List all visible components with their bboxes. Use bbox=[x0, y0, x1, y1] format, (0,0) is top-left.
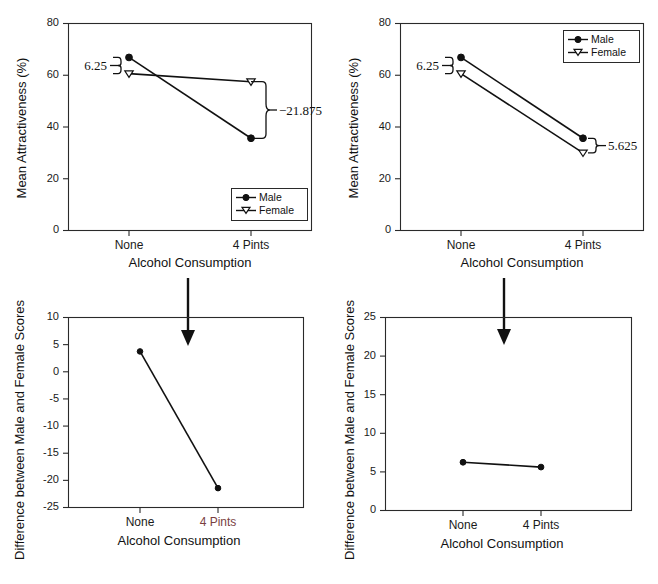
data-point-male-four-pints bbox=[580, 135, 587, 142]
y-axis-ticks-bottom-right: 0 5 10 15 20 25 bbox=[364, 310, 386, 515]
y-tick-label: 60 bbox=[379, 68, 391, 80]
x-axis-ticks-top-left: None 4 Pints bbox=[115, 231, 270, 253]
legend-marker-male bbox=[575, 36, 581, 42]
y-axis-title-bottom-right: Difference between Male and Female Score… bbox=[342, 300, 357, 560]
y-tick-label: -25 bbox=[43, 500, 59, 512]
annotation-bracket-none-top-right: 6.25 bbox=[416, 57, 453, 73]
y-tick-label: 0 bbox=[53, 365, 59, 377]
y-tick-label: 0 bbox=[385, 223, 391, 235]
y-axis-title-top-left: Mean Attractiveness (%) bbox=[14, 58, 29, 199]
y-axis-ticks-bottom-left: -25 -20 -15 -10 -5 0 5 10 bbox=[43, 310, 68, 512]
y-axis-title-bottom-left: Difference between Male and Female Score… bbox=[12, 300, 27, 560]
series-line-difference bbox=[463, 462, 541, 467]
chart-panel-top-right: Mean Attractiveness (%) 0 20 40 60 80 No… bbox=[330, 0, 658, 270]
y-axis-title-top-right: Mean Attractiveness (%) bbox=[346, 58, 361, 199]
annotation-label-6-25: 6.25 bbox=[84, 58, 107, 73]
y-tick-label: 20 bbox=[379, 172, 391, 184]
x-axis-title-bottom-right: Alcohol Consumption bbox=[441, 536, 564, 551]
y-tick-label: 10 bbox=[364, 426, 376, 438]
x-axis-ticks-bottom-right: None 4 Pints bbox=[449, 511, 560, 533]
x-tick-label-none: None bbox=[449, 518, 478, 532]
series-line-female bbox=[461, 74, 583, 153]
data-point-male-none bbox=[126, 54, 133, 61]
y-tick-label: 5 bbox=[370, 465, 376, 477]
legend-top-left[interactable]: Male Female bbox=[232, 189, 308, 221]
data-point-diff-none bbox=[137, 349, 143, 355]
data-point-female-four-pints bbox=[579, 150, 587, 156]
y-tick-label: -15 bbox=[43, 446, 59, 458]
data-point-male-none bbox=[458, 54, 465, 61]
series-line-female bbox=[129, 74, 251, 82]
data-point-diff-none bbox=[460, 459, 466, 465]
y-tick-label: 80 bbox=[47, 16, 59, 28]
x-tick-label-four-pints: 4 Pints bbox=[523, 518, 560, 532]
y-tick-label: 10 bbox=[47, 310, 59, 322]
y-tick-label: 25 bbox=[364, 310, 376, 322]
y-tick-label: 40 bbox=[47, 120, 59, 132]
data-point-diff-four-pints bbox=[538, 464, 544, 470]
series-line-male bbox=[461, 57, 583, 138]
legend-label-female: Female bbox=[591, 46, 626, 58]
legend-top-right[interactable]: Male Female bbox=[564, 31, 640, 63]
x-tick-label-none: None bbox=[126, 515, 155, 529]
x-axis-title-top-left: Alcohol Consumption bbox=[129, 255, 252, 270]
annotation-bracket-four-pints-top-right: 5.625 bbox=[588, 138, 637, 153]
y-tick-label: 0 bbox=[370, 503, 376, 515]
y-tick-label: -10 bbox=[43, 419, 59, 431]
series-line-male bbox=[129, 57, 251, 138]
legend-marker-male bbox=[243, 194, 249, 200]
x-axis-title-bottom-left: Alcohol Consumption bbox=[118, 533, 241, 548]
y-axis-ticks-top-left: 0 20 40 60 80 bbox=[47, 16, 69, 235]
x-axis-title-top-right: Alcohol Consumption bbox=[461, 255, 584, 270]
y-tick-label: 60 bbox=[47, 68, 59, 80]
arrow-down-left bbox=[181, 278, 195, 346]
chart-panel-bottom-right: Difference between Male and Female Score… bbox=[330, 270, 658, 584]
y-tick-label: 0 bbox=[53, 223, 59, 235]
x-axis-ticks-bottom-left: None 4 Pints bbox=[126, 508, 237, 530]
x-axis-ticks-top-right: None 4 Pints bbox=[447, 231, 602, 253]
legend-label-male: Male bbox=[591, 33, 614, 45]
x-tick-label-none: None bbox=[115, 238, 144, 252]
y-tick-label: 20 bbox=[47, 172, 59, 184]
x-tick-label-four-pints: 4 Pints bbox=[200, 515, 237, 529]
y-tick-label: 5 bbox=[53, 338, 59, 350]
arrow-down-right bbox=[497, 278, 511, 345]
plot-frame-bottom-right bbox=[386, 318, 632, 511]
annotation-label-5-625: 5.625 bbox=[608, 138, 637, 153]
x-tick-label-none: None bbox=[447, 238, 476, 252]
chart-panel-bottom-left: Difference between Male and Female Score… bbox=[0, 270, 330, 584]
legend-label-male: Male bbox=[259, 191, 282, 203]
y-tick-label: 15 bbox=[364, 388, 376, 400]
y-tick-label: 40 bbox=[379, 120, 391, 132]
annotation-label-6-25: 6.25 bbox=[416, 58, 439, 73]
series-line-difference bbox=[140, 351, 218, 488]
data-point-diff-four-pints bbox=[215, 485, 221, 491]
annotation-bracket-none-top-left: 6.25 bbox=[84, 57, 121, 73]
y-tick-label: 20 bbox=[364, 349, 376, 361]
four-panel-interaction-figure: Mean Attractiveness (%) 0 20 40 60 80 bbox=[0, 0, 658, 584]
chart-panel-top-left: Mean Attractiveness (%) 0 20 40 60 80 bbox=[0, 0, 330, 270]
x-tick-label-four-pints: 4 Pints bbox=[233, 238, 270, 252]
annotation-label-neg-21-875: −21.875 bbox=[279, 103, 322, 118]
x-tick-label-four-pints: 4 Pints bbox=[565, 238, 602, 252]
y-tick-label: -20 bbox=[43, 473, 59, 485]
y-tick-label: 80 bbox=[379, 16, 391, 28]
legend-label-female: Female bbox=[259, 204, 294, 216]
y-tick-label: -5 bbox=[49, 392, 59, 404]
plot-frame-bottom-left bbox=[69, 318, 304, 508]
y-axis-ticks-top-right: 0 20 40 60 80 bbox=[379, 16, 401, 235]
